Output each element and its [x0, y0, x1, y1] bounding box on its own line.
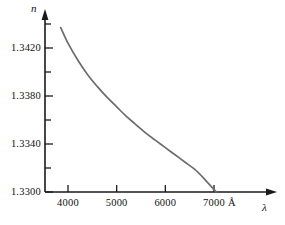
x-tick-label: 6000: [154, 198, 176, 209]
x-axis: [45, 189, 277, 196]
y-axis: [42, 9, 49, 192]
y-axis-ticks: [45, 24, 53, 192]
x-tick-label: 4000: [57, 198, 79, 209]
dispersion-curve-line: [61, 28, 217, 192]
x-axis-unit-label: Å: [228, 198, 236, 209]
x-axis-title: λ: [262, 202, 267, 213]
x-axis-ticks: [68, 185, 214, 192]
x-tick-label: 5000: [106, 198, 128, 209]
x-tick-label: 7000: [203, 198, 225, 209]
y-axis-title: n: [31, 3, 37, 14]
y-tick-label: 1.3340: [11, 139, 41, 150]
y-tick-label: 1.3420: [11, 43, 41, 54]
plot-canvas: [0, 0, 285, 225]
y-tick-label: 1.3380: [11, 91, 41, 102]
y-tick-label: 1.3300: [11, 187, 41, 198]
dispersion-curve-figure: n λ Å 1.33001.33401.33801.3420 400050006…: [0, 0, 285, 225]
